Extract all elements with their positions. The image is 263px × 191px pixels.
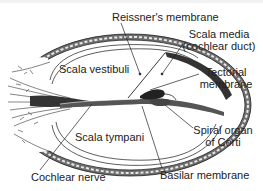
label-scala-media-line1: Scala media	[176, 28, 262, 40]
label-basilar-membrane: Basilar membrane	[160, 169, 249, 181]
label-scala-vestibuli: Scala vestibuli	[59, 63, 129, 75]
label-scala-tympani: Scala tympani	[75, 131, 144, 143]
label-tectorial-line1: Tectorial	[196, 66, 256, 78]
label-scala-media: Scala media (cochlear duct)	[176, 28, 262, 52]
label-spiral-organ-line1: Spiral organ	[190, 124, 256, 136]
label-cochlear-nerve: Cochlear nerve	[31, 171, 106, 183]
label-spiral-organ-line2: of Corti	[190, 136, 256, 148]
label-tectorial-line2: membrane	[196, 78, 256, 90]
label-spiral-organ: Spiral organ of Corti	[190, 124, 256, 148]
label-tectorial-membrane: Tectorial membrane	[196, 66, 256, 90]
label-scala-media-line2: (cochlear duct)	[176, 40, 262, 52]
label-reissners-membrane: Reissner's membrane	[112, 11, 219, 23]
